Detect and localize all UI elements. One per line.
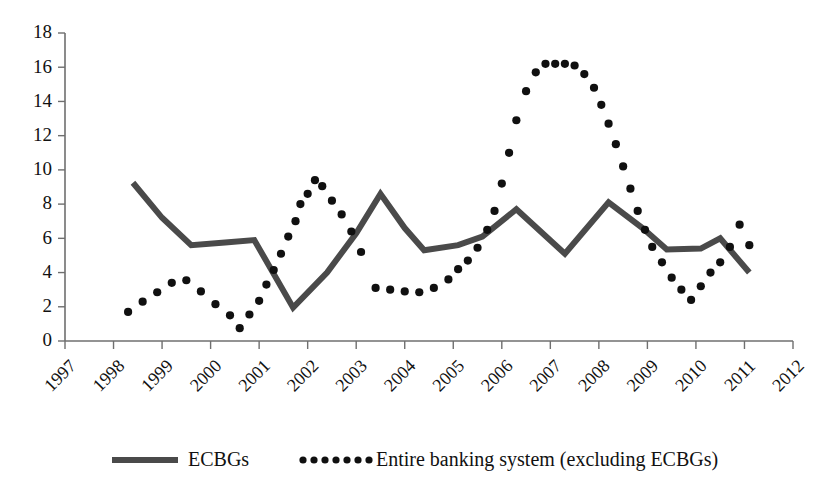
data-point-dot [464, 256, 472, 264]
data-point-dot [245, 310, 253, 318]
data-point-dot [498, 179, 506, 187]
data-point-dot [634, 207, 642, 215]
data-point-dot [626, 185, 634, 193]
data-point-dot [182, 276, 190, 284]
data-point-dot [454, 265, 462, 273]
x-tick-label: 1997 [40, 356, 80, 396]
series-entire-banking-system-dots [124, 60, 753, 333]
data-point-dot [311, 176, 319, 184]
data-point-dot [687, 296, 695, 304]
legend-dot [310, 456, 317, 463]
data-point-dot [318, 182, 326, 190]
y-tick-label: 12 [33, 124, 52, 145]
data-point-dot [604, 120, 612, 128]
data-point-dot [580, 70, 588, 78]
data-point-dot [648, 243, 656, 251]
x-tick-label: 2006 [477, 356, 517, 396]
data-point-dot [153, 288, 161, 296]
data-point-dot [168, 279, 176, 287]
data-point-dot [401, 287, 409, 295]
data-point-dot [139, 298, 147, 306]
x-tick-label: 2011 [720, 356, 759, 395]
y-tick-label: 4 [43, 261, 53, 282]
data-point-dot [541, 60, 549, 68]
legend-dot [299, 456, 306, 463]
data-point-dot [338, 210, 346, 218]
y-axis: 024681012141618 [33, 21, 65, 350]
data-point-dot [512, 116, 520, 124]
data-point-dot [706, 268, 714, 276]
data-point-dot [291, 217, 299, 225]
chart-legend: ECBGs Entire banking system (excluding E… [112, 448, 718, 471]
data-point-dot [697, 282, 705, 290]
data-point-dot [304, 190, 312, 198]
data-point-dot [328, 197, 336, 205]
legend-dot [321, 456, 328, 463]
data-point-dot [551, 60, 559, 68]
data-point-dot [745, 241, 753, 249]
data-point-dot [490, 207, 498, 215]
legend-swatch-entire-banking-system [299, 456, 372, 463]
y-axis-ticks: 024681012141618 [33, 21, 65, 350]
data-point-dot [415, 288, 423, 296]
data-point-dot [612, 140, 620, 148]
data-point-dot [532, 68, 540, 76]
x-tick-label: 2002 [283, 356, 323, 396]
x-axis-ticks: 1997199819992000200120022003200420052006… [40, 341, 808, 395]
x-tick-label: 2001 [234, 356, 274, 396]
data-point-dot [597, 101, 605, 109]
data-point-dot [236, 324, 244, 332]
data-point-dot [197, 287, 205, 295]
x-axis: 1997199819992000200120022003200420052006… [40, 341, 808, 395]
legend-dot [354, 456, 361, 463]
y-tick-label: 2 [43, 295, 53, 316]
data-point-dot [347, 227, 355, 235]
data-point-dot [372, 284, 380, 292]
x-tick-label: 2010 [671, 356, 711, 396]
data-point-dot [444, 275, 452, 283]
x-tick-label: 2007 [526, 356, 566, 396]
legend-label-entire-banking-system: Entire banking system (excluding ECBGs) [376, 448, 718, 471]
data-point-dot [619, 162, 627, 170]
data-point-dot [473, 244, 481, 252]
data-point-dot [677, 286, 685, 294]
x-tick-label: 2003 [331, 356, 371, 396]
legend-dot [343, 456, 350, 463]
data-point-dot [386, 286, 394, 294]
data-point-dot [505, 149, 513, 157]
y-tick-label: 18 [33, 21, 52, 42]
x-tick-label: 1998 [89, 356, 129, 396]
data-point-dot [277, 250, 285, 258]
y-tick-label: 8 [43, 192, 53, 213]
line-chart: 024681012141618 199719981999200020012002… [0, 0, 829, 498]
y-tick-label: 6 [43, 227, 53, 248]
data-point-dot [668, 274, 676, 282]
data-point-dot [641, 226, 649, 234]
x-tick-label: 2009 [623, 356, 663, 396]
data-point-dot [262, 280, 270, 288]
x-tick-label: 1999 [137, 356, 177, 396]
data-point-dot [226, 311, 234, 319]
x-tick-label: 2008 [574, 356, 614, 396]
data-point-dot [726, 243, 734, 251]
data-point-dot [571, 61, 579, 69]
data-point-dot [211, 300, 219, 308]
plot-area [124, 60, 753, 333]
y-tick-label: 0 [43, 329, 53, 350]
data-point-dot [522, 87, 530, 95]
data-point-dot [716, 258, 724, 266]
legend-dot [365, 456, 372, 463]
series-ecbgs-line [133, 183, 749, 308]
x-tick-label: 2000 [186, 356, 226, 396]
y-tick-label: 16 [33, 56, 52, 77]
data-point-dot [590, 84, 598, 92]
x-tick-label: 2004 [380, 356, 420, 396]
y-tick-label: 10 [33, 158, 52, 179]
data-point-dot [357, 248, 365, 256]
x-tick-label: 2012 [768, 356, 808, 396]
data-point-dot [296, 200, 304, 208]
chart-container: 024681012141618 199719981999200020012002… [0, 0, 829, 498]
legend-label-ecbgs: ECBGs [188, 448, 249, 470]
data-point-dot [430, 284, 438, 292]
data-point-dot [124, 308, 132, 316]
